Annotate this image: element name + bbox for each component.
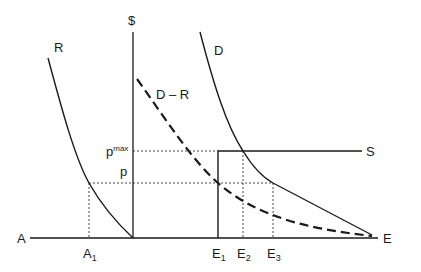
d-minus-r-curve xyxy=(137,79,372,236)
s-curve-label: S xyxy=(366,144,375,159)
d-curve-label: D xyxy=(214,43,223,58)
x-axis-left-label: A xyxy=(17,231,26,246)
p-label: p xyxy=(120,164,127,179)
s-curve xyxy=(218,151,362,238)
e3-label: E3 xyxy=(267,246,281,263)
d-minus-r-label: D – R xyxy=(156,87,189,102)
d-curve xyxy=(200,32,372,235)
y-axis-label: $ xyxy=(128,13,136,28)
r-curve-label: R xyxy=(54,40,63,55)
a1-label: A1 xyxy=(83,246,97,263)
pmax-label: pmax xyxy=(106,144,128,159)
supply-demand-diagram: $ A E R D D – R S pmax p A1 E1 E2 E3 xyxy=(0,0,421,272)
x-axis-right-label: E xyxy=(383,231,392,246)
e2-label: E2 xyxy=(237,246,251,263)
e1-label: E1 xyxy=(212,246,226,263)
